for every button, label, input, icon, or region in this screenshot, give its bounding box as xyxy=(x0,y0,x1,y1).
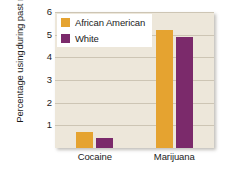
bar-marijuana-african-american xyxy=(156,30,173,148)
plot-area: African American White xyxy=(55,12,214,148)
legend-item-african-american: African American xyxy=(61,17,145,28)
bar-chart-figure: Percentage using during past month 12345… xyxy=(0,0,233,173)
y-tick-label-6: 6 xyxy=(34,7,52,17)
legend: African American White xyxy=(57,14,152,47)
y-tick-label-4: 4 xyxy=(34,52,52,62)
x-tick-label-cocaine: Cocaine xyxy=(78,151,112,162)
y-axis-title: Percentage using during past month xyxy=(2,0,36,114)
legend-label-african-american: African American xyxy=(75,17,145,28)
bar-marijuana-white xyxy=(176,37,193,148)
x-axis-tick-labels: CocaineMarijuana xyxy=(55,151,214,167)
legend-swatch-white xyxy=(61,34,70,43)
legend-swatch-african-american xyxy=(61,18,70,27)
y-axis-tick-labels: 123456 xyxy=(34,8,52,150)
bar-cocaine-african-american xyxy=(76,132,93,148)
y-axis-title-line-1: Percentage using xyxy=(14,51,25,123)
y-tick-label-2: 2 xyxy=(34,98,52,108)
bar-cocaine-white xyxy=(96,138,113,148)
x-tick-label-marijuana: Marijuana xyxy=(154,151,195,162)
y-axis-title-line-2: during past month xyxy=(14,0,25,50)
legend-label-white: White xyxy=(75,33,99,44)
legend-item-white: White xyxy=(61,33,145,44)
y-tick-label-5: 5 xyxy=(34,30,52,40)
y-tick-label-1: 1 xyxy=(34,120,52,130)
y-tick-label-3: 3 xyxy=(34,75,52,85)
